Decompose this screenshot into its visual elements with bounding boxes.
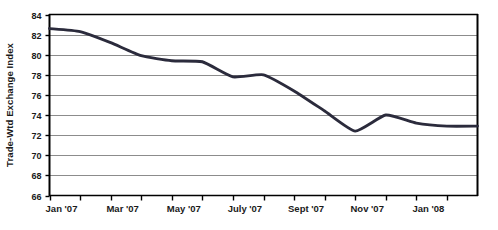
chart-container: 66687072747678808284 Jan '07Mar '07May '… [0, 0, 498, 230]
y-tick-label-76: 76 [31, 91, 41, 101]
y-tick-label-74: 74 [31, 111, 41, 121]
x-tick-label-5: Nov '07 [351, 203, 384, 214]
y-axis-title: Trade-Wtd Exchange Index [4, 42, 15, 166]
x-tick-label-4: Sept '07 [288, 203, 324, 214]
y-tick-label-78: 78 [31, 71, 41, 81]
y-tick-label-84: 84 [31, 11, 41, 21]
y-tick-label-80: 80 [31, 51, 41, 61]
y-tick-label-66: 66 [31, 192, 41, 202]
y-tick-label-72: 72 [31, 131, 41, 141]
x-tick-label-3: July '07 [228, 203, 262, 214]
y-tick-label-68: 68 [31, 171, 41, 181]
x-tick-label-2: May '07 [167, 203, 201, 214]
x-tick-label-6: Jan '08 [412, 203, 444, 214]
y-tick-label-82: 82 [31, 31, 41, 41]
x-tick-label-0: Jan '07 [46, 203, 78, 214]
y-tick-label-70: 70 [31, 151, 41, 161]
x-tick-label-1: Mar '07 [106, 203, 138, 214]
trade-weighted-exchange-index-line-chart: 66687072747678808284 Jan '07Mar '07May '… [0, 0, 498, 230]
